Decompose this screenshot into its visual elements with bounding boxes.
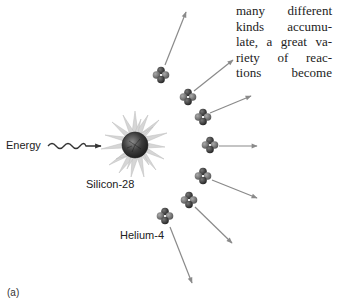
body-text-line: late, a great va- [236, 34, 332, 50]
energy-label: Energy [6, 139, 41, 151]
emission-arrow-icon [170, 227, 192, 283]
emission-arrow-icon [210, 96, 251, 113]
energy-wave-arrow-icon [48, 144, 101, 149]
helium-nucleus-icon [180, 89, 197, 106]
body-text-excerpt: many different kinds accumu- late, a gre… [236, 3, 332, 81]
fusion-diagram: Energy Silicon-28 Helium-4 many differen… [0, 0, 340, 303]
helium-4-label: Helium-4 [120, 229, 164, 241]
emission-arrow-icon [165, 12, 186, 65]
emission-arrow-icon [194, 60, 233, 91]
silicon-28-label: Silicon-28 [86, 178, 134, 190]
silicon-28-starburst-icon [101, 111, 167, 177]
body-text-line: tions become [236, 65, 332, 81]
helium-nucleus-icon [195, 109, 212, 126]
panel-label: (a) [7, 287, 19, 298]
helium-nucleus-icon [195, 168, 212, 185]
helium-nucleus-icon [202, 137, 219, 154]
emission-arrow-icon [195, 207, 232, 243]
helium-nucleus-icon [157, 208, 174, 225]
body-text-line: kinds accumu- [236, 19, 332, 35]
emission-arrow-icon [212, 180, 257, 198]
body-text-line: riety of reac- [236, 50, 332, 66]
helium-nucleus-icon [181, 192, 198, 209]
helium-nucleus-icon [153, 67, 170, 84]
body-text-line: many different [236, 3, 332, 19]
